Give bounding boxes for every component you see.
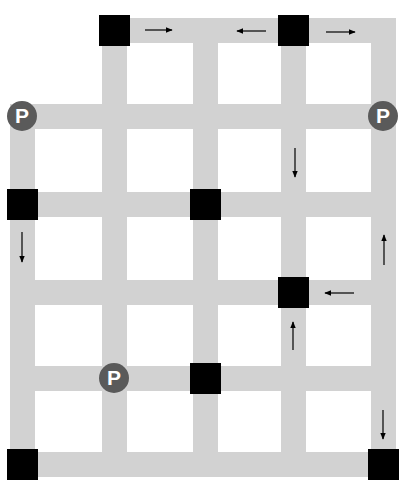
vertical-road-3 xyxy=(193,18,218,477)
parking-icon: P xyxy=(7,101,37,131)
vertical-road-5 xyxy=(371,18,396,477)
vertical-road-4 xyxy=(281,18,306,477)
intersection-block xyxy=(190,189,221,220)
intersection-block xyxy=(190,363,221,394)
intersection-block xyxy=(7,189,38,220)
parking-icon: P xyxy=(99,363,129,393)
vertical-road-1 xyxy=(10,104,35,477)
intersection-block xyxy=(99,15,130,46)
parking-icon: P xyxy=(368,101,398,131)
street-grid-map: PPP xyxy=(0,0,405,491)
intersection-block xyxy=(368,449,399,480)
horizontal-road-1 xyxy=(102,18,396,43)
intersection-block xyxy=(7,449,38,480)
intersection-block xyxy=(278,15,309,46)
intersection-block xyxy=(278,277,309,308)
vertical-road-2 xyxy=(102,18,127,477)
